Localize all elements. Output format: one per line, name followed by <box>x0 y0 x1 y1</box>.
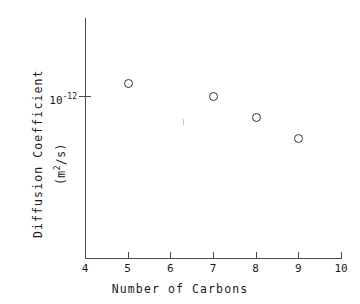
x-axis-tick <box>85 252 86 259</box>
data-point-marker <box>294 134 303 143</box>
data-point-marker <box>124 79 133 88</box>
data-point-marker <box>209 92 218 101</box>
y-axis-units: (m2/s) <box>54 143 68 185</box>
y-axis-spine <box>85 18 86 259</box>
x-axis-tick <box>298 252 299 259</box>
y-axis-tick <box>79 96 91 97</box>
x-axis-tick-label: 7 <box>198 262 228 275</box>
x-axis-title: Number of Carbons <box>0 282 360 296</box>
x-axis-tick-label: 4 <box>70 262 100 275</box>
y-axis-title-group: Diffusion Coefficient (m2/s) <box>10 0 66 280</box>
x-axis-tick <box>256 252 257 259</box>
data-point-marker <box>252 113 261 122</box>
x-axis-tick <box>128 252 129 259</box>
x-axis-tick-label: 9 <box>283 262 313 275</box>
x-axis-tick <box>213 252 214 259</box>
x-axis-tick <box>170 252 171 259</box>
y-axis-title: Diffusion Coefficient <box>31 70 45 239</box>
x-axis-tick-label: 5 <box>113 262 143 275</box>
scan-artifact-speck <box>183 119 184 125</box>
x-axis-tick-label: 10 <box>326 262 356 275</box>
x-axis-tick <box>341 252 342 259</box>
x-axis-tick-label: 6 <box>155 262 185 275</box>
x-axis-tick-label: 8 <box>241 262 271 275</box>
scatter-chart-figure: 45678910 10-12 Number of Carbons Diffusi… <box>0 0 360 304</box>
